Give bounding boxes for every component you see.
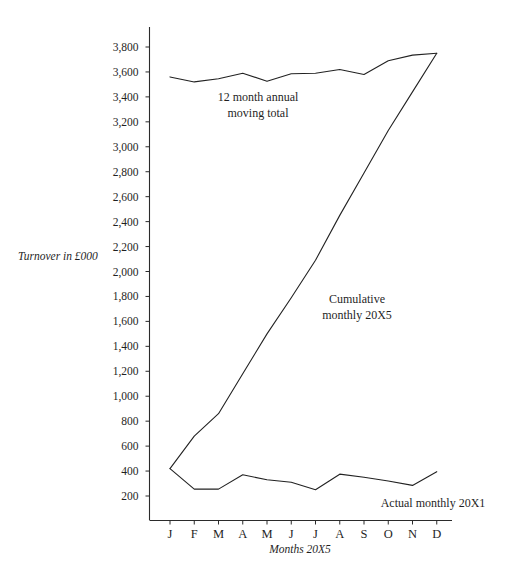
x-month-label: A (335, 527, 344, 541)
annotation-moving-total: 12 month annual moving total (218, 90, 299, 120)
y-tick-label: 2,800 (113, 166, 139, 179)
chart-container: 2004006008001,0001,2001,4001,6001,8002,0… (0, 0, 513, 575)
series-line-actual-monthly (170, 469, 437, 490)
y-tick-label: 1,000 (113, 390, 139, 403)
y-axis-tick-labels: 2004006008001,0001,2001,4001,6001,8002,0… (113, 41, 139, 502)
y-tick-label: 3,200 (113, 116, 139, 129)
turnover-line-chart: 2004006008001,0001,2001,4001,6001,8002,0… (0, 0, 513, 575)
x-month-label: J (168, 527, 173, 541)
annotation-actual-monthly: Actual monthly 20X1 (381, 496, 486, 510)
annotation-cumulative: Cumulative monthly 20X5 (322, 292, 392, 322)
y-axis-group: 2004006008001,0001,2001,4001,6001,8002,0… (113, 27, 150, 520)
y-tick-label: 1,800 (113, 290, 139, 303)
annotation-moving-total-line2: moving total (228, 106, 290, 120)
y-tick-label: 200 (121, 490, 139, 502)
x-axis-title: Months 20X5 (268, 543, 331, 555)
y-axis-title: Turnover in £000 (18, 250, 98, 262)
x-month-label: M (261, 527, 272, 541)
y-tick-label: 3,000 (113, 141, 139, 154)
x-axis-tick-marks (170, 521, 437, 525)
series-line-cumulative-monthly (170, 53, 437, 468)
y-axis-tick-marks (146, 47, 150, 496)
annotation-cumulative-line1: Cumulative (329, 292, 385, 306)
x-month-label: N (408, 527, 417, 541)
x-axis-group: JFMAMJJASOND (150, 521, 453, 541)
x-month-label: J (313, 527, 318, 541)
y-tick-label: 2,000 (113, 266, 139, 279)
y-tick-label: 3,400 (113, 91, 139, 104)
x-month-label: S (361, 527, 368, 541)
x-month-label: M (213, 527, 224, 541)
y-tick-label: 1,600 (113, 315, 139, 328)
annotation-moving-total-line1: 12 month annual (218, 90, 299, 104)
annotation-cumulative-line2: monthly 20X5 (322, 308, 392, 322)
x-month-label: O (384, 527, 393, 541)
y-tick-label: 1,200 (113, 365, 139, 378)
series-line-moving-total (170, 53, 437, 82)
x-month-label: J (289, 527, 294, 541)
y-tick-label: 400 (121, 465, 139, 477)
annotation-actual-monthly-line1: Actual monthly 20X1 (381, 496, 486, 510)
y-tick-label: 3,600 (113, 66, 139, 79)
x-month-label: F (191, 527, 198, 541)
y-tick-label: 2,400 (113, 216, 139, 229)
y-tick-label: 3,800 (113, 41, 139, 54)
x-month-label: D (432, 527, 441, 541)
y-tick-label: 800 (121, 415, 139, 427)
y-tick-label: 2,600 (113, 191, 139, 204)
x-axis-month-labels: JFMAMJJASOND (168, 527, 442, 541)
y-tick-label: 600 (121, 440, 139, 452)
y-tick-label: 2,200 (113, 241, 139, 254)
x-month-label: A (238, 527, 247, 541)
y-tick-label: 1,400 (113, 340, 139, 353)
